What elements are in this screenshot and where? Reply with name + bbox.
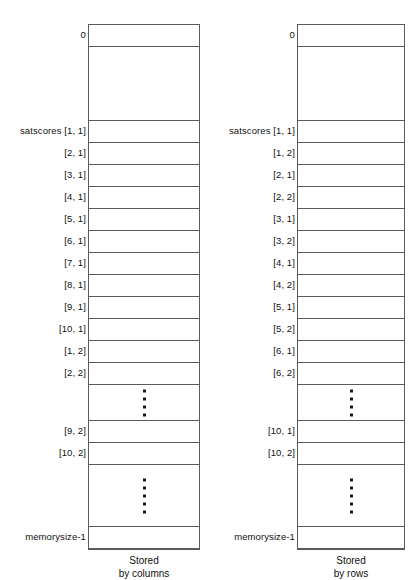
memory-cell xyxy=(298,527,404,549)
memory-cell xyxy=(298,143,404,165)
memory-address-label: 0 xyxy=(0,29,86,40)
array-element-label: [10, 1] xyxy=(135,425,295,436)
array-element-label: [5, 1] xyxy=(135,301,295,312)
memory-cell xyxy=(298,443,404,465)
array-element-label: [7, 1] xyxy=(0,257,86,268)
array-element-label: [2, 1] xyxy=(0,147,86,158)
array-element-label: [6, 1] xyxy=(0,235,86,246)
array-element-label: [5, 1] xyxy=(0,213,86,224)
memory-cell-ellipsis xyxy=(298,385,404,421)
memory-cell-empty xyxy=(298,47,404,121)
array-element-label: satscores [1, 1] xyxy=(135,125,295,136)
vertical-ellipsis-icon xyxy=(89,389,199,416)
array-element-label: [4, 1] xyxy=(135,257,295,268)
array-element-label: [2, 2] xyxy=(135,191,295,202)
memory-cell xyxy=(298,209,404,231)
memory-cell xyxy=(298,187,404,209)
array-element-label: [3, 1] xyxy=(135,213,295,224)
memory-address-label: memorysize-1 xyxy=(135,531,295,542)
memory-cell xyxy=(298,165,404,187)
memory-cell xyxy=(298,275,404,297)
array-element-label: [1, 2] xyxy=(135,147,295,158)
memory-cell xyxy=(298,421,404,443)
array-element-label: [3, 2] xyxy=(135,235,295,246)
memory-cell xyxy=(298,363,404,385)
memory-cell xyxy=(298,253,404,275)
array-element-label: [6, 1] xyxy=(135,345,295,356)
memory-address-label: 0 xyxy=(135,29,295,40)
array-element-label: satscores [1, 1] xyxy=(0,125,86,136)
memory-cell xyxy=(298,297,404,319)
array-element-label: [2, 1] xyxy=(135,169,295,180)
array-element-label: [9, 1] xyxy=(0,301,86,312)
memory-cell-table-right xyxy=(297,24,405,550)
array-element-label: [10, 2] xyxy=(0,447,86,458)
array-element-label: [4, 1] xyxy=(0,191,86,202)
memory-cell-ellipsis xyxy=(298,465,404,527)
array-element-label: [10, 2] xyxy=(135,447,295,458)
array-element-label: [9, 2] xyxy=(0,425,86,436)
array-element-label: [3, 1] xyxy=(0,169,86,180)
memory-cell xyxy=(298,319,404,341)
memory-cell xyxy=(298,25,404,47)
caption-stored-by-rows: Stored by rows xyxy=(297,554,405,580)
array-element-label: [2, 2] xyxy=(0,367,86,378)
array-element-label: [10, 1] xyxy=(0,323,86,334)
memory-cell xyxy=(298,121,404,143)
memory-address-label: memorysize-1 xyxy=(0,531,86,542)
vertical-ellipsis-icon xyxy=(89,478,199,513)
vertical-ellipsis-icon xyxy=(298,478,404,513)
array-element-label: [6, 2] xyxy=(135,367,295,378)
vertical-ellipsis-icon xyxy=(298,389,404,416)
array-element-label: [8, 1] xyxy=(0,279,86,290)
array-element-label: [4, 2] xyxy=(135,279,295,290)
caption-stored-by-columns: Stored by columns xyxy=(88,554,200,580)
memory-cell xyxy=(298,231,404,253)
memory-cell xyxy=(298,341,404,363)
memory-cell-empty xyxy=(89,47,199,121)
array-element-label: [5, 2] xyxy=(135,323,295,334)
memory-cell-ellipsis xyxy=(89,465,199,527)
memory-cell-ellipsis xyxy=(89,385,199,421)
array-element-label: [1, 2] xyxy=(0,345,86,356)
